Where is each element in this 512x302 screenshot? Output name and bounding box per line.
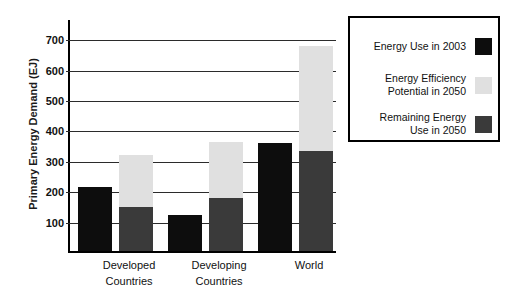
y-tick-mark-400 bbox=[66, 131, 71, 132]
y-tick-label-100: 100 bbox=[46, 217, 64, 229]
legend-swatch bbox=[475, 77, 492, 94]
segment-remaining-energy-use-2050 bbox=[299, 151, 333, 251]
y-tick-mark-700 bbox=[66, 40, 71, 41]
bar-group-developed-countries bbox=[74, 20, 159, 251]
segment-energy-efficiency-potential-2050 bbox=[299, 46, 333, 151]
y-tick-label-400: 400 bbox=[46, 125, 64, 137]
y-tick-label-500: 500 bbox=[46, 95, 64, 107]
legend-swatch bbox=[475, 116, 492, 133]
x-axis-line bbox=[68, 251, 336, 253]
legend-item-0: Energy Use in 2003 bbox=[350, 38, 502, 55]
bar-2050-stack bbox=[119, 155, 153, 251]
y-axis-title: Primary Energy Demand (EJ) bbox=[27, 29, 39, 239]
y-tick-label-600: 600 bbox=[46, 65, 64, 77]
y-tick-mark-500 bbox=[66, 101, 71, 102]
bar-energy-use-2003 bbox=[78, 187, 112, 251]
y-tick-mark-600 bbox=[66, 71, 71, 72]
legend-swatch bbox=[475, 38, 492, 55]
segment-energy-efficiency-potential-2050 bbox=[119, 155, 153, 207]
segment-remaining-energy-use-2050 bbox=[119, 207, 153, 251]
y-tick-mark-300 bbox=[66, 162, 71, 163]
bar-2050-stack bbox=[299, 46, 333, 251]
y-tick-label-200: 200 bbox=[46, 186, 64, 198]
legend-label: Remaining EnergyUse in 2050 bbox=[380, 111, 466, 137]
bar-energy-use-2003 bbox=[168, 215, 202, 251]
bar-group-world bbox=[254, 20, 339, 251]
y-tick-label-700: 700 bbox=[46, 34, 64, 46]
category-label-world: World bbox=[254, 257, 364, 273]
y-tick-label-300: 300 bbox=[46, 156, 64, 168]
segment-remaining-energy-use-2050 bbox=[209, 198, 243, 251]
legend-item-2: Remaining EnergyUse in 2050 bbox=[350, 111, 502, 137]
legend: Energy Use in 2003Energy EfficiencyPoten… bbox=[348, 16, 500, 142]
segment-energy-efficiency-potential-2050 bbox=[209, 142, 243, 198]
energy-demand-bar-chart: Primary Energy Demand (EJ) 1002003004005… bbox=[0, 0, 512, 302]
bar-energy-use-2003 bbox=[258, 143, 292, 251]
bar-group-developing-countries bbox=[164, 20, 249, 251]
legend-item-1: Energy EfficiencyPotential in 2050 bbox=[350, 72, 502, 98]
y-tick-mark-200 bbox=[66, 192, 71, 193]
y-tick-mark-100 bbox=[66, 223, 71, 224]
legend-label: Energy EfficiencyPotential in 2050 bbox=[385, 72, 466, 98]
y-axis-line bbox=[68, 20, 70, 253]
bar-2050-stack bbox=[209, 142, 243, 251]
plot-area: 100200300400500600700 bbox=[68, 20, 336, 253]
legend-label: Energy Use in 2003 bbox=[374, 40, 466, 53]
